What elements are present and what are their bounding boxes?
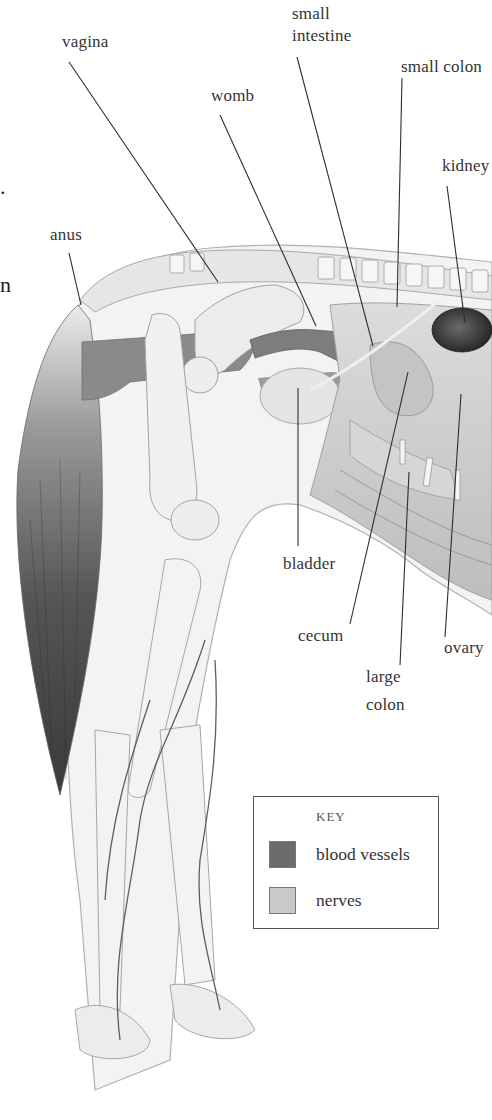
label-small-colon: small colon: [401, 56, 482, 77]
label-small-intestine: small: [292, 3, 330, 24]
label-large-colon: large: [366, 666, 401, 687]
label-womb: womb: [211, 85, 254, 106]
label-anus: anus: [50, 224, 82, 245]
nerves-swatch-icon: [269, 887, 296, 914]
edge-text-fragment: n: [0, 272, 11, 298]
legend-title: KEY: [316, 809, 346, 825]
legend-label: blood vessels: [316, 844, 410, 865]
label-kidney: kidney: [442, 155, 489, 176]
horse-anatomy-illustration: [0, 0, 492, 1120]
label-vagina: vagina: [62, 31, 109, 52]
leader-line-anus: [69, 253, 81, 305]
edge-text-fragment: .: [0, 174, 6, 200]
blood-vessels-swatch-icon: [269, 841, 296, 868]
bladder-organ: [260, 368, 340, 424]
legend-key: KEY blood vessels nerves: [253, 796, 439, 929]
legend-label: nerves: [316, 890, 362, 911]
label-bladder: bladder: [283, 553, 335, 574]
legend-item-nerves: nerves: [269, 887, 362, 914]
label-cecum: cecum: [298, 625, 343, 646]
label-large-colon: colon: [366, 694, 405, 715]
label-small-intestine: intestine: [292, 25, 351, 46]
legend-item-blood-vessels: blood vessels: [269, 841, 410, 868]
kidney-organ: [432, 308, 492, 352]
label-ovary: ovary: [444, 637, 484, 658]
leader-line-vagina: [69, 62, 218, 282]
